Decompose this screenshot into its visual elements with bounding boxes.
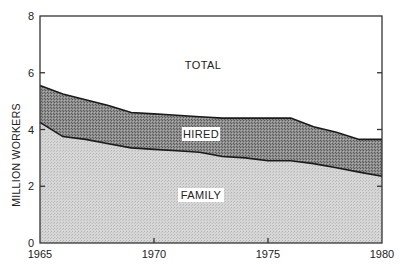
x-tick-label: 1970 <box>142 248 166 260</box>
stacked-area-chart: 02468 1965197019751980 MILLION WORKERS T… <box>0 0 407 267</box>
x-tick-label: 1965 <box>28 248 52 260</box>
hired-area-label: HIRED <box>183 128 219 140</box>
y-tick-label: 6 <box>28 67 34 79</box>
x-tick-label: 1975 <box>256 248 280 260</box>
y-tick-label: 2 <box>28 180 34 192</box>
x-tick-label: 1980 <box>370 248 394 260</box>
y-tick-label: 4 <box>28 124 34 136</box>
y-axis-title: MILLION WORKERS <box>10 103 22 207</box>
family-area-label: FAMILY <box>181 189 222 201</box>
y-tick-label: 8 <box>28 10 34 22</box>
plot-area <box>40 86 382 244</box>
total-area-label: TOTAL <box>185 59 221 71</box>
